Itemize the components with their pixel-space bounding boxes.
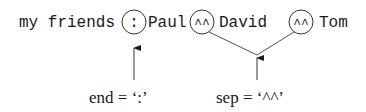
sep-connector-right	[257, 32, 294, 55]
sep-connector-left	[209, 32, 257, 55]
end-marker-text: :	[129, 14, 139, 32]
sep-label: sep = ‘^^’	[216, 88, 284, 107]
print-end-sep-diagram: my friends : Paul ^^ David ^^ Tom end = …	[0, 0, 366, 112]
prefix-text: my friends	[19, 14, 115, 32]
end-label: end = ‘:’	[89, 88, 148, 107]
sep-marker-text-2: ^^	[293, 17, 309, 32]
item-paul: Paul	[148, 14, 186, 32]
sep-marker-text-1: ^^	[194, 17, 210, 32]
diagram-svg: my friends : Paul ^^ David ^^ Tom end = …	[0, 0, 366, 112]
item-tom: Tom	[319, 14, 348, 32]
item-david: David	[219, 14, 267, 32]
